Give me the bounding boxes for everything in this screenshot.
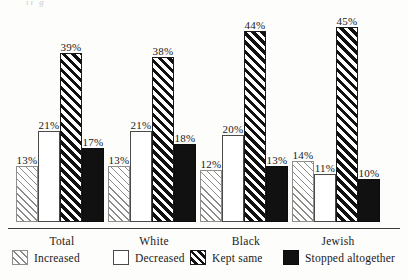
plot-area: 13%21%39%17%13%21%38%18%12%20%44%13%14%1… bbox=[0, 6, 408, 222]
bar: 38% bbox=[152, 57, 174, 222]
legend-label: Increased bbox=[34, 251, 80, 265]
bar-value-label: 38% bbox=[153, 45, 174, 57]
bar: 21% bbox=[38, 131, 60, 222]
bar: 44% bbox=[244, 31, 266, 222]
bar-value-label: 14% bbox=[293, 149, 314, 161]
bar-chart: ıı ɡ 13%21%39%17%13%21%38%18%12%20%44%13… bbox=[0, 0, 408, 280]
bar-value-label: 18% bbox=[175, 132, 196, 144]
legend-item: Increased bbox=[12, 250, 80, 265]
bar-value-label: 17% bbox=[83, 136, 104, 148]
bar-group: 13%21%38%18% bbox=[108, 6, 200, 222]
category-label: Jewish bbox=[292, 234, 384, 248]
bar-value-label: 21% bbox=[131, 119, 152, 131]
legend-label: Stopped altogether bbox=[305, 251, 395, 265]
bar: 12% bbox=[200, 170, 222, 222]
bar-value-label: 12% bbox=[201, 158, 222, 170]
chart-legend: IncreasedDecreasedKept sameStopped altog… bbox=[0, 250, 408, 272]
category-label: Total bbox=[16, 234, 108, 248]
legend-swatch-icon bbox=[283, 250, 299, 265]
bar-group: 13%21%39%17% bbox=[16, 6, 108, 222]
bar-value-label: 39% bbox=[61, 41, 82, 53]
bar-value-label: 13% bbox=[267, 154, 288, 166]
bar: 18% bbox=[174, 144, 196, 222]
bar-value-label: 10% bbox=[359, 167, 380, 179]
bar: 13% bbox=[266, 166, 288, 222]
legend-label: Decreased bbox=[135, 251, 185, 265]
legend-item: Decreased bbox=[113, 250, 185, 265]
bar-value-label: 11% bbox=[315, 162, 335, 174]
legend-item: Stopped altogether bbox=[283, 250, 395, 265]
bar-value-label: 44% bbox=[245, 19, 266, 31]
x-axis-line bbox=[8, 228, 400, 229]
bar: 13% bbox=[16, 166, 38, 222]
legend-label: Kept same bbox=[212, 251, 263, 265]
bar-value-label: 45% bbox=[337, 15, 358, 27]
bar: 39% bbox=[60, 53, 82, 222]
bar-value-label: 20% bbox=[223, 123, 244, 135]
bar: 45% bbox=[336, 27, 358, 222]
legend-swatch-icon bbox=[113, 250, 129, 265]
bar: 17% bbox=[82, 148, 104, 222]
bar-value-label: 13% bbox=[17, 154, 38, 166]
bar: 14% bbox=[292, 161, 314, 222]
legend-swatch-icon bbox=[190, 250, 206, 265]
bar: 21% bbox=[130, 131, 152, 222]
bar-value-label: 13% bbox=[109, 154, 130, 166]
category-label: Black bbox=[200, 234, 292, 248]
legend-swatch-icon bbox=[12, 250, 28, 265]
bar: 20% bbox=[222, 135, 244, 222]
category-label: White bbox=[108, 234, 200, 248]
bar-group: 12%20%44%13% bbox=[200, 6, 292, 222]
bar-group: 14%11%45%10% bbox=[292, 6, 384, 222]
legend-item: Kept same bbox=[190, 250, 263, 265]
bar-value-label: 21% bbox=[39, 119, 60, 131]
bar: 11% bbox=[314, 174, 336, 222]
bar: 13% bbox=[108, 166, 130, 222]
bar: 10% bbox=[358, 179, 380, 222]
